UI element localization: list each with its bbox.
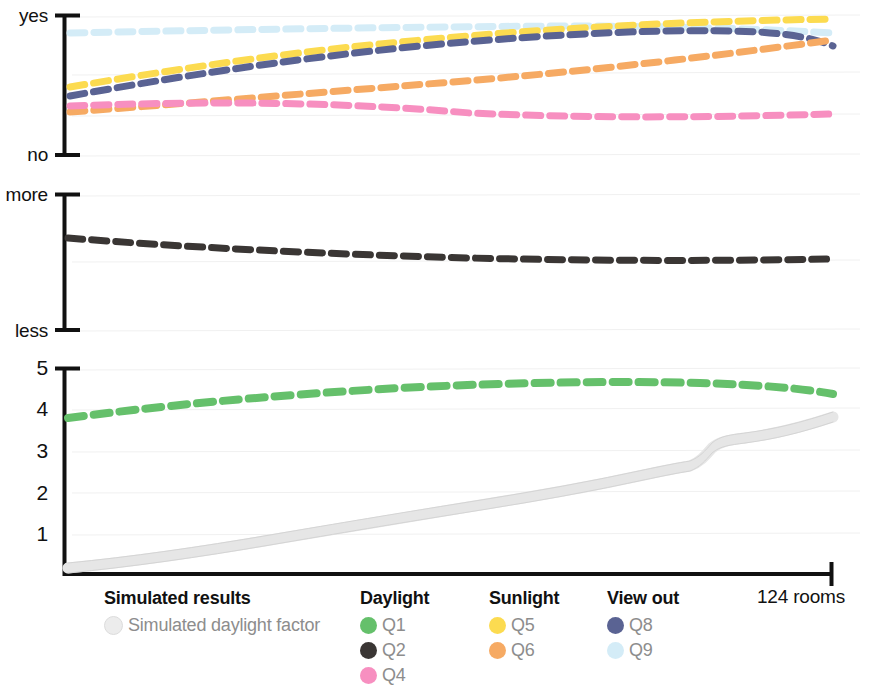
- legend-item-q9[interactable]: Q9: [607, 638, 679, 663]
- legend-item-label: Simulated daylight factor: [128, 615, 320, 636]
- legend-item-label: Q5: [511, 615, 535, 636]
- legend-item-label: Q9: [629, 640, 653, 661]
- panel-2-bottom-label: less: [0, 320, 48, 342]
- legend-item-label: Q4: [382, 665, 406, 686]
- y-tick-2: 2: [18, 481, 48, 505]
- legend-swatch-icon: [104, 616, 123, 635]
- legend-group-simulated-results: Simulated results Simulated daylight fac…: [104, 588, 320, 638]
- y-tick-5: 5: [18, 356, 48, 380]
- panel-1-bottom-label: no: [8, 144, 48, 166]
- legend-item-q2[interactable]: Q2: [360, 638, 429, 663]
- legend-item-label: Q2: [382, 640, 406, 661]
- panel-2-axis: [55, 194, 80, 331]
- legend-item-q1[interactable]: Q1: [360, 613, 429, 638]
- series-q6-line: [70, 40, 833, 112]
- legend-item-q8[interactable]: Q8: [607, 613, 679, 638]
- legend-group-title: Simulated results: [104, 588, 320, 609]
- panel-2-top-label: more: [0, 184, 48, 206]
- legend-swatch-icon: [607, 617, 624, 634]
- legend-swatch-icon: [489, 617, 506, 634]
- y-tick-1: 1: [18, 522, 48, 546]
- legend-swatch-icon: [360, 667, 377, 684]
- legend-swatch-icon: [489, 642, 506, 659]
- legend-group-title: Sunlight: [489, 588, 559, 609]
- y-tick-3: 3: [18, 439, 48, 463]
- grid-lines: [72, 15, 860, 535]
- legend-group-title: Daylight: [360, 588, 429, 609]
- legend-item-q4[interactable]: Q4: [360, 663, 429, 688]
- legend-swatch-icon: [360, 642, 377, 659]
- legend-item-label: Q8: [629, 615, 653, 636]
- legend-group-daylight: Daylight Q1 Q2 Q4: [360, 588, 429, 688]
- legend-item-simulated-daylight-factor[interactable]: Simulated daylight factor: [104, 613, 320, 638]
- legend-group-title: View out: [607, 588, 679, 609]
- legend-item-q6[interactable]: Q6: [489, 638, 559, 663]
- legend-swatch-icon: [360, 617, 377, 634]
- series-q1-line: [68, 382, 833, 418]
- legend-swatch-icon: [607, 642, 624, 659]
- chart-legend: Simulated results Simulated daylight fac…: [0, 588, 888, 680]
- series-q8-line: [70, 31, 833, 96]
- legend-group-view-out: View out Q8 Q9: [607, 588, 679, 663]
- legend-group-sunlight: Sunlight Q5 Q6: [489, 588, 559, 663]
- legend-item-label: Q1: [382, 615, 406, 636]
- panel-1-top-label: yes: [8, 5, 48, 27]
- y-tick-4: 4: [18, 397, 48, 421]
- legend-item-q5[interactable]: Q5: [489, 613, 559, 638]
- legend-item-label: Q6: [511, 640, 535, 661]
- series-q2-line: [68, 238, 833, 260]
